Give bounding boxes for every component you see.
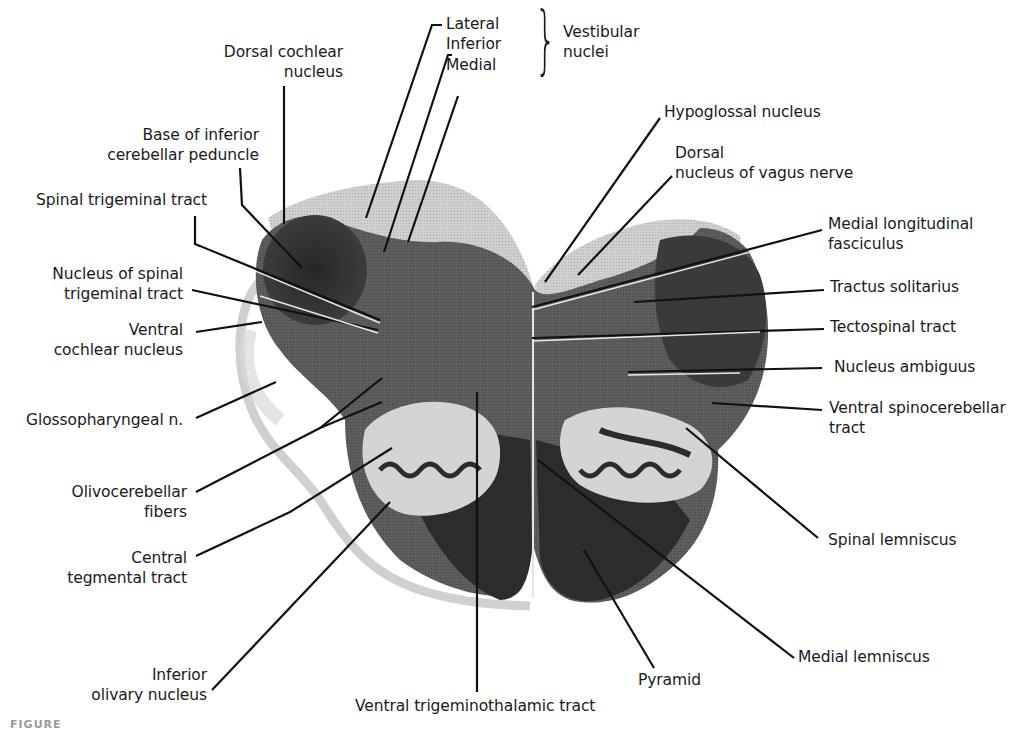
label-lateral-vestibular: Lateral (446, 14, 499, 34)
label-medial-longitudinal-fasciculus: Medial longitudinal fasciculus (828, 214, 973, 254)
label-hypoglossal-nucleus: Hypoglossal nucleus (664, 102, 821, 122)
label-pyramid: Pyramid (638, 670, 701, 690)
label-tectospinal-tract: Tectospinal tract (830, 317, 956, 337)
label-olivocerebellar-fibers: Olivocerebellar fibers (72, 482, 187, 522)
label-ventral-trigeminothalamic-tract: Ventral trigeminothalamic tract (355, 696, 595, 716)
label-ventral-cochlear-nucleus: Ventral cochlear nucleus (54, 320, 183, 360)
vestibular-brace: } (535, 2, 556, 76)
label-vestibular-nuclei: Vestibular nuclei (563, 22, 639, 62)
label-medial-vestibular: Medial (446, 55, 496, 75)
label-medial-lemniscus: Medial lemniscus (798, 647, 930, 667)
label-ventral-spinocerebellar-tract: Ventral spinocerebellar tract (829, 398, 1006, 438)
label-base-inferior-cerebellar-peduncle: Base of inferior cerebellar peduncle (107, 125, 259, 165)
leader-ventral-cochlear (196, 322, 262, 332)
label-dorsal-cochlear-nucleus: Dorsal cochlear nucleus (224, 42, 343, 82)
label-inferior-vestibular: Inferior (446, 34, 501, 54)
medulla-outline (256, 180, 768, 603)
leader-inferior-olivary (212, 502, 390, 690)
label-spinal-lemniscus: Spinal lemniscus (828, 530, 957, 550)
label-inferior-olivary-nucleus: Inferior olivary nucleus (91, 665, 207, 705)
figure-stage: } Lateral Inferior Medial Vestibular nuc… (0, 0, 1033, 730)
figure-caption: FIGURE (10, 718, 62, 730)
label-nucleus-spinal-trigeminal-tract: Nucleus of spinal trigeminal tract (52, 264, 183, 304)
label-nucleus-ambiguus: Nucleus ambiguus (834, 357, 975, 377)
label-spinal-trigeminal-tract: Spinal trigeminal tract (36, 190, 207, 210)
label-glossopharyngeal-nerve: Glossopharyngeal n. (26, 410, 183, 430)
label-tractus-solitarius: Tractus solitarius (830, 277, 959, 297)
label-central-tegmental-tract: Central tegmental tract (67, 548, 187, 588)
label-dorsal-nucleus-vagus: Dorsal nucleus of vagus nerve (675, 143, 853, 183)
